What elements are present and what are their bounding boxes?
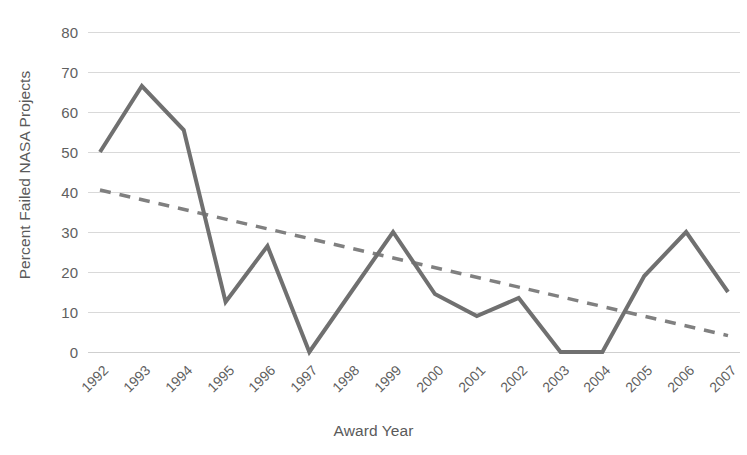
x-tick-label-text: 1995	[204, 362, 237, 395]
x-tick-label-text: 2001	[455, 362, 488, 395]
x-tick-label: 2004	[563, 362, 614, 413]
x-tick-label-text: 1999	[371, 362, 404, 395]
y-tick-label: 0	[22, 344, 78, 361]
x-tick-label-text: 1994	[162, 362, 195, 395]
y-tick-label: 40	[22, 184, 78, 201]
y-tick-label: 50	[22, 144, 78, 161]
x-tick-label-text: 2006	[664, 362, 697, 395]
x-tick-label: 2001	[437, 362, 488, 413]
y-tick-label: 20	[22, 264, 78, 281]
y-tick-label: 10	[22, 304, 78, 321]
x-tick-label: 1994	[144, 362, 195, 413]
x-tick-label: 2006	[647, 362, 698, 413]
x-tick-label: 1998	[312, 362, 363, 413]
x-axis-tick-labels: 1992199319941995199619971998199920002001…	[88, 352, 740, 422]
x-tick-label: 1997	[270, 362, 321, 413]
x-tick-label-text: 2004	[580, 362, 613, 395]
x-tick-label-text: 1992	[78, 362, 111, 395]
y-tick-label: 80	[22, 24, 78, 41]
x-axis-title: Award Year	[0, 422, 747, 440]
x-tick-label-text: 1997	[287, 362, 320, 395]
x-tick-label: 2003	[521, 362, 572, 413]
chart-container: Percent Failed NASA Projects 01020304050…	[0, 0, 747, 455]
series-layer	[88, 32, 740, 352]
y-tick-label: 70	[22, 64, 78, 81]
x-tick-label: 2000	[395, 362, 446, 413]
x-tick-label: 2005	[605, 362, 656, 413]
y-axis-tick-labels: 01020304050607080	[0, 32, 78, 352]
x-tick-label-text: 1998	[329, 362, 362, 395]
x-tick-label: 1996	[228, 362, 279, 413]
x-tick-label-text: 2005	[622, 362, 655, 395]
x-tick-label: 1999	[353, 362, 404, 413]
x-tick-label-text: 2003	[539, 362, 572, 395]
x-tick-label: 2002	[479, 362, 530, 413]
x-tick-label: 1993	[102, 362, 153, 413]
x-tick-label-text: 2000	[413, 362, 446, 395]
x-tick-label: 1992	[60, 362, 111, 413]
y-tick-label: 60	[22, 104, 78, 121]
x-tick-label-text: 1993	[120, 362, 153, 395]
x-tick-label: 1995	[186, 362, 237, 413]
x-tick-label-text: 2002	[497, 362, 530, 395]
x-tick-label: 2007	[688, 362, 739, 413]
y-tick-label: 30	[22, 224, 78, 241]
x-tick-label-text: 2007	[706, 362, 739, 395]
plot-area	[88, 32, 740, 352]
x-tick-label-text: 1996	[245, 362, 278, 395]
